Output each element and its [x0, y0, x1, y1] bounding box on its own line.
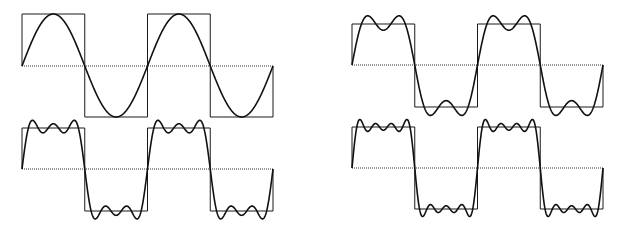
panel-top-right: [352, 16, 603, 116]
fourier-square-wave-figure: [0, 0, 623, 230]
panel-bottom-left: [22, 120, 273, 219]
panel-top-left: [22, 14, 273, 117]
panel-bottom-right: [352, 119, 603, 216]
